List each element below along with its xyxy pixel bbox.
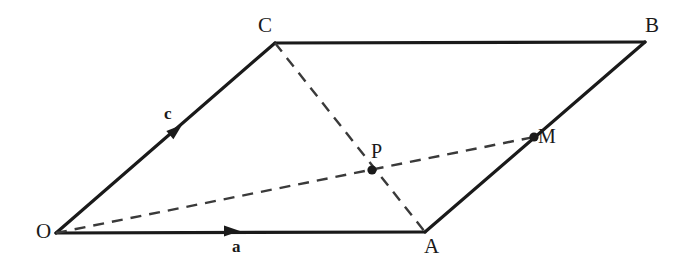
edge-OC: [56, 43, 275, 233]
point-label-P: P: [371, 141, 382, 161]
vector-a-arrowhead: [224, 226, 240, 237]
vertex-label-O: O: [36, 221, 51, 242]
vertex-label-B: B: [645, 15, 659, 36]
vertex-label-C: C: [258, 15, 272, 36]
edge-OA: [56, 232, 425, 233]
vector-arrowhead-group: [166, 125, 240, 237]
point-P-dot: [367, 165, 376, 174]
point-label-M: M: [538, 126, 556, 146]
vertex-label-A: A: [424, 236, 439, 257]
edge-OM-dashed: [56, 137, 534, 233]
geometry-figure: O A B C P M a c: [0, 0, 692, 261]
vector-label-a: a: [232, 238, 241, 255]
diagram-canvas: [0, 0, 692, 261]
dashed-edge-group: [56, 43, 534, 233]
vector-label-c: c: [164, 105, 172, 122]
edge-CA-dashed: [275, 43, 425, 232]
edge-CB: [275, 42, 645, 43]
